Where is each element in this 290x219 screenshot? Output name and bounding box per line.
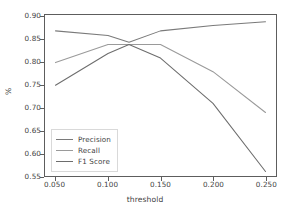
legend-swatch-recall — [56, 150, 73, 151]
legend-swatch-f1-score — [56, 161, 73, 162]
y-axis-title: % — [4, 88, 13, 95]
y-axis-tick-label: 0.85 — [25, 36, 41, 43]
x-axis-tick-mark — [266, 177, 267, 181]
x-axis-tick-label: 0.250 — [256, 181, 277, 188]
x-axis-tick-label: 0.150 — [150, 181, 171, 188]
legend-label-recall: Recall — [78, 146, 100, 155]
y-axis-tick-mark — [40, 177, 44, 178]
legend-label-f1-score: F1 Score — [78, 157, 110, 166]
y-axis-tick-label: 0.60 — [25, 150, 41, 157]
y-axis-tick-label: 0.75 — [25, 82, 41, 89]
x-axis-tick-label: 0.200 — [203, 181, 224, 188]
plot-area: Precision Recall F1 Score — [44, 14, 277, 177]
y-axis-tick-label: 0.55 — [25, 173, 41, 180]
legend-item-recall: Recall — [56, 145, 111, 156]
series-line-precision — [55, 22, 265, 42]
y-axis-tick-label: 0.70 — [25, 105, 41, 112]
x-axis-tick-mark — [55, 177, 56, 181]
y-axis-tick-label: 0.80 — [25, 59, 41, 66]
legend-swatch-precision — [56, 139, 73, 140]
series-line-recall — [55, 44, 265, 112]
y-axis-tick-label: 0.65 — [25, 127, 41, 134]
legend-item-precision: Precision — [56, 134, 111, 145]
chart-legend: Precision Recall F1 Score — [51, 129, 118, 172]
line-chart-figure: 0.550.600.650.700.750.800.850.90 0.0500.… — [0, 0, 290, 219]
x-axis-tick-label: 0.050 — [44, 181, 65, 188]
x-axis-tick-mark — [108, 177, 109, 181]
x-axis-title: threshold — [0, 195, 290, 204]
x-axis-tick-label: 0.100 — [97, 181, 118, 188]
legend-label-precision: Precision — [78, 135, 111, 144]
x-axis-tick-mark — [161, 177, 162, 181]
y-axis-tick-label: 0.90 — [25, 13, 41, 20]
legend-item-f1-score: F1 Score — [56, 156, 111, 167]
x-axis-tick-mark — [213, 177, 214, 181]
